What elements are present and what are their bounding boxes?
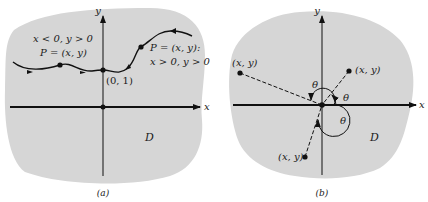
diagram-canvas: y x x < 0, y > 0 P = (x, y) P = (x, y): … [0,0,428,202]
x-axis-label-a: x [204,101,210,112]
theta-label-3: θ [340,115,346,126]
right-condition-text: x > 0, y > 0 [150,56,210,67]
point-0-1-label: (0, 1) [106,75,133,86]
region-d-b [229,11,413,178]
panel-b: y x (x, y) (x, y) (x, y) θ θ θ D (b) [229,5,425,198]
panel-a: y x x < 0, y > 0 P = (x, y) P = (x, y): … [5,5,211,198]
left-condition-text: x < 0, y > 0 [33,33,93,44]
point-lower-left-label: (x, y) [278,151,304,162]
point-upper-left-label: (x, y) [232,57,258,68]
origin-point-a [101,105,106,110]
right-point-text: P = (x, y): [149,42,200,53]
point-p-left [57,62,62,67]
region-label-b: D [369,131,379,144]
point-upper-left [237,70,242,75]
left-point-text: P = (x, y) [39,47,87,58]
x-axis-label-b: x [419,99,425,110]
point-p-right [138,44,143,49]
caption-a: (a) [97,188,110,198]
theta-label-2: θ [343,92,349,103]
y-axis-label-b: y [313,5,320,16]
point-upper-right [346,68,351,73]
caption-b: (b) [316,188,329,198]
region-label-a: D [144,131,154,144]
y-axis-label-a: y [94,5,101,16]
point-upper-right-label: (x, y) [355,64,381,75]
theta-label-1: θ [312,79,318,90]
point-0-1 [100,67,105,72]
